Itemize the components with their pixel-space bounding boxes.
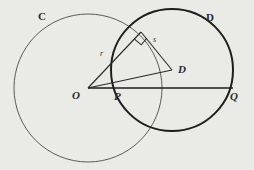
- geometry-figure: C D O P Q D r s: [0, 0, 254, 170]
- label-segment-s: s: [153, 36, 156, 44]
- label-point-p: P: [114, 91, 121, 102]
- segment-od: [88, 70, 172, 88]
- segment-ot: [88, 32, 141, 88]
- label-point-o: O: [72, 90, 80, 101]
- label-point-d-center: D: [178, 64, 186, 75]
- label-circle-d: D: [206, 12, 214, 23]
- segment-td: [141, 32, 172, 70]
- label-circle-c: C: [38, 11, 46, 22]
- label-point-q: Q: [230, 91, 238, 102]
- figure-canvas: [0, 0, 254, 170]
- label-segment-r: r: [100, 50, 103, 58]
